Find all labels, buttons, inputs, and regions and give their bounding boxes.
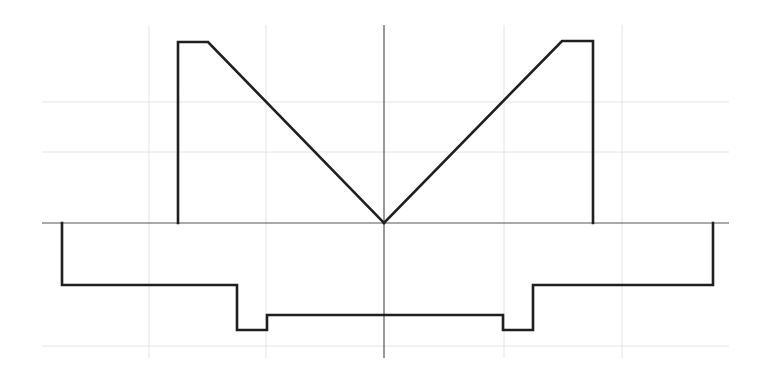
reference-axes [42, 25, 729, 358]
right-tower-outline [384, 41, 593, 223]
background-grid [42, 25, 729, 358]
diagram-canvas [0, 0, 759, 371]
profile-drawing [0, 0, 759, 371]
left-tower-outline [178, 42, 384, 223]
lower-base-outline [62, 223, 713, 330]
